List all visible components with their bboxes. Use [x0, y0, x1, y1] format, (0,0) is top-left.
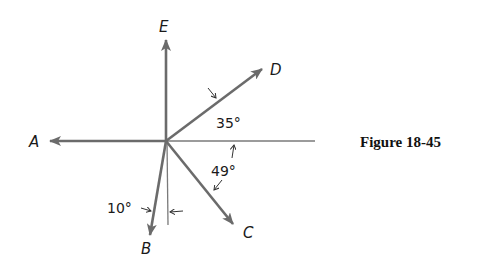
vector-b: [150, 141, 166, 235]
angle-tick-35: [208, 88, 216, 98]
angle-tick-10-right: [170, 211, 183, 212]
label-c: C: [243, 224, 254, 242]
vector-d: [166, 69, 262, 141]
label-b: B: [141, 240, 151, 258]
label-e: E: [159, 18, 169, 36]
label-a: A: [28, 133, 39, 151]
label-d: D: [270, 61, 282, 79]
angle-label-10: 10°: [107, 200, 132, 216]
angle-tick-49-top: [232, 145, 234, 158]
angle-tick-10-left: [141, 208, 151, 211]
angle-label-35: 35°: [216, 115, 241, 131]
angle-label-49: 49°: [211, 163, 236, 179]
angle-tick-49-bottom: [214, 180, 222, 190]
y-axis-negative: [167, 141, 168, 225]
vector-diagram: A B C D E 35° 49° 10° Figure 18-45: [0, 0, 496, 271]
figure-caption: Figure 18-45: [360, 134, 441, 150]
